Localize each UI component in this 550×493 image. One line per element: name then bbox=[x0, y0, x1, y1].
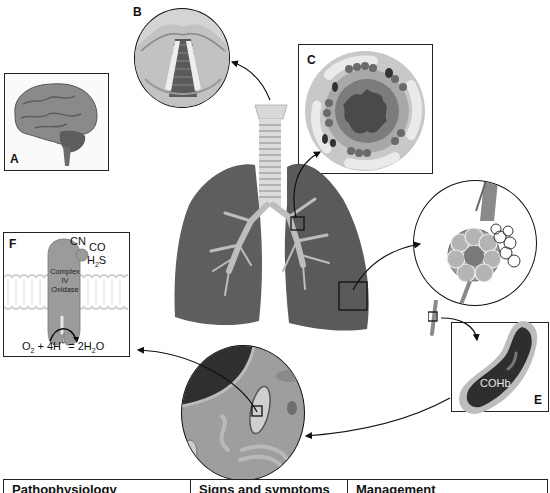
mitochondrion-icon bbox=[182, 346, 305, 481]
inhibitor-co: CO bbox=[89, 241, 106, 253]
panel-d-alveoli-circle bbox=[413, 180, 537, 306]
alveoli-icon bbox=[414, 181, 537, 306]
reaction-equation: O2 + 4H+ = 2H2O bbox=[22, 339, 104, 354]
panel-e-cohb-box: COHb E bbox=[451, 322, 549, 412]
cohb-label: COHb bbox=[480, 377, 511, 389]
enzyme-label: Complex IV Oxidase bbox=[48, 267, 82, 294]
column-header-management: Management bbox=[348, 480, 547, 493]
mitochondrion-cell-circle bbox=[181, 345, 305, 481]
panel-b-label: B bbox=[133, 5, 142, 19]
panel-c-label: C bbox=[307, 53, 316, 67]
lungs-icon bbox=[155, 95, 395, 335]
complex-iv-membrane-icon bbox=[4, 233, 128, 355]
column-header-pathophysiology: Pathophysiology bbox=[4, 480, 191, 493]
panel-a-brain-box: A bbox=[4, 73, 109, 171]
summary-table-header: Pathophysiology Signs and symptoms Manag… bbox=[3, 479, 548, 493]
panel-a-label: A bbox=[10, 152, 19, 166]
larynx-icon bbox=[135, 9, 230, 108]
inhibitor-cn: CN bbox=[70, 235, 86, 247]
panel-e-label: E bbox=[534, 393, 542, 407]
column-header-signs-and-symptoms: Signs and symptoms bbox=[191, 480, 348, 493]
panel-b-larynx-circle bbox=[134, 8, 230, 108]
panel-f-complex-iv-box: F CN CO H2S Complex IV Oxidase O2 + 4H+ … bbox=[3, 232, 130, 357]
inhibitor-h2s: H2S bbox=[87, 254, 106, 268]
brain-icon bbox=[5, 74, 107, 169]
